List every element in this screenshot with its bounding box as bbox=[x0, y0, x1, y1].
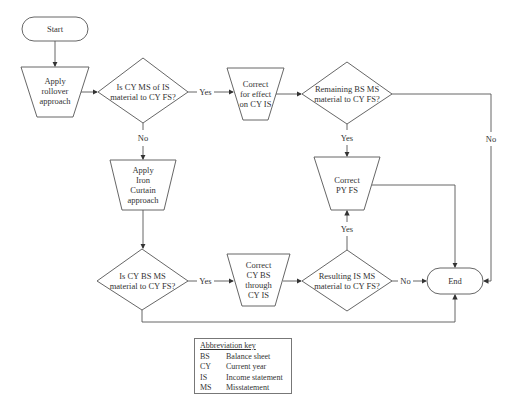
key-row: BSBalance sheet bbox=[200, 352, 286, 363]
decision-cy-is-label: Is CY MS of IS material to CY FS? bbox=[98, 82, 188, 102]
edge-yes-1: Yes bbox=[197, 87, 214, 97]
rollover-label: Apply rollover approach bbox=[21, 76, 89, 106]
edge-no-2: No bbox=[481, 134, 501, 144]
edge-yes-2: Yes bbox=[337, 133, 357, 143]
correct-py-label: Correct PY FS bbox=[314, 175, 380, 195]
decision-remaining-bs-label: Remaining BS MS material to CY FS? bbox=[302, 84, 392, 104]
iron-curtain-label: Apply Iron Curtain approach bbox=[110, 165, 176, 205]
decision-resulting-is-label: Resulting IS MS material to CY FS? bbox=[302, 271, 392, 291]
key-row: ISIncome statement bbox=[200, 373, 286, 384]
start-label: Start bbox=[22, 24, 88, 34]
edge-yes-4: Yes bbox=[337, 224, 357, 234]
edge-yes-3: Yes bbox=[197, 276, 214, 286]
key-row: CYCurrent year bbox=[200, 362, 286, 373]
edge-no-1: No bbox=[133, 133, 153, 143]
abbreviation-key: Abbreviation key BSBalance sheet CYCurre… bbox=[194, 338, 292, 394]
correct-cy-bs-label: Correct CY BS through CY IS bbox=[227, 260, 290, 300]
decision-cy-bs-label: Is CY BS MS material to CY FS? bbox=[97, 271, 188, 291]
edge-no-4: No bbox=[398, 276, 413, 286]
key-row: MSMisstatement bbox=[200, 383, 286, 394]
key-title: Abbreviation key bbox=[200, 341, 286, 352]
end-label: End bbox=[427, 276, 483, 286]
correct-effect-label: Correct for effect on CY IS bbox=[227, 79, 284, 109]
